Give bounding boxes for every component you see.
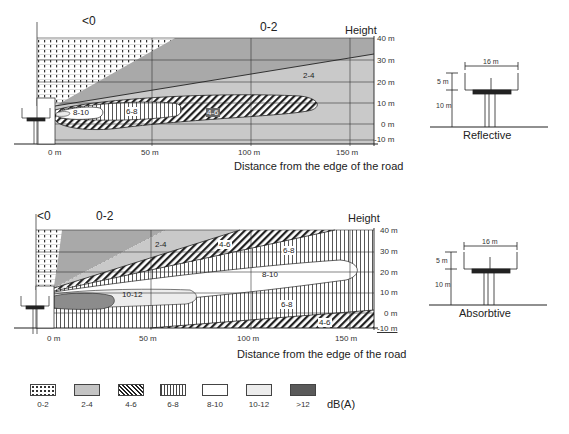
legend-item-2-4: 2-4 [65,384,109,409]
y-tick-40: 40 m [380,226,398,235]
absorbtive-width-label: 16 m [481,238,499,245]
y-tick-40: 40 m [377,34,395,43]
x-tick-50: 50 m [139,334,157,343]
height-axis-title: Height [345,24,377,36]
y-tick-minus-10: -10 m [377,324,397,333]
y-tick-10: 10 m [377,99,395,108]
zone-label-6-8-upper: 6-8 [282,246,296,255]
zone-label-4-6-lower: 4-6 [318,318,332,327]
y-tick-30: 30 m [380,247,398,256]
zone-label-below-zero: <0 [82,14,96,28]
zone-label-6-8: 6-8 [125,107,139,116]
y-tick-0: 0 m [384,309,397,318]
legend-item-10-12: 10-12 [237,384,281,409]
x-tick-150: 150 m [335,334,357,343]
y-tick-minus-10: -10 m [374,135,394,144]
legend-item-gt-12: >12 [281,384,325,409]
x-tick-100: 100 m [238,148,260,157]
zone-label-2-4: 2-4 [303,71,315,80]
reflective-plot [14,22,378,146]
y-tick-30: 30 m [377,56,395,65]
legend-label: >12 [281,400,325,409]
x-tick-0: 0 m [48,148,61,157]
reflective-upper-height-label: 5 m [437,78,449,85]
x-tick-50: 50 m [141,148,159,157]
reflective-width-label: 16 m [482,58,500,65]
x-axis-title: Distance from the edge of the road [237,348,406,360]
absorbtive-lower-height-label: 10 m [435,281,451,288]
zone-label-8-10: 8-10 [262,270,278,279]
diagram-canvas [0,0,569,434]
swatch-very-light-gray [246,384,272,396]
swatch-light-gray [74,384,100,396]
y-tick-20: 20 m [380,268,398,277]
legend-label: 4-6 [109,400,153,409]
zone-label-4-6: 4-6 [206,108,220,117]
height-axis-title: Height [348,212,380,224]
x-tick-100: 100 m [237,334,259,343]
absorbtive-plot [14,214,378,334]
legend-item-0-2: 0-2 [21,384,65,409]
swatch-diagonal-hatch [118,384,144,396]
zone-label-below-zero: <0 [37,209,51,223]
legend-item-8-10: 8-10 [193,384,237,409]
reflective-barrier-schematic [430,62,548,127]
legend-unit: dB(A) [327,398,355,410]
x-axis-title: Distance from the edge of the road [234,160,403,172]
x-tick-0: 0 m [47,334,60,343]
absorbtive-upper-height-label: 5 m [436,257,448,264]
swatch-white [202,384,228,396]
zone-label-10-12: 10-12 [122,290,142,299]
legend-label: 8-10 [193,400,237,409]
absorbtive-barrier-schematic [429,242,547,305]
y-tick-20: 20 m [377,78,395,87]
reflective-caption: Reflective [463,129,511,141]
legend-label: 6-8 [151,400,195,409]
zone-label-0-2: 0-2 [96,209,113,223]
legend-label: 2-4 [65,400,109,409]
legend-label: 0-2 [21,400,65,409]
legend-label: 10-12 [237,400,281,409]
reflective-lower-height-label: 10 m [436,102,452,109]
y-tick-10: 10 m [380,288,398,297]
x-tick-150: 150 m [336,148,358,157]
swatch-dotted-grid [30,384,56,396]
zone-label-0-2: 0-2 [260,20,277,34]
zone-label-8-10: 8-10 [73,108,89,117]
zone-label-4-6-upper: 4-6 [218,240,232,249]
swatch-dark-gray [290,384,316,396]
legend-item-4-6: 4-6 [109,384,153,409]
absorbtive-caption: Absorbtive [459,307,511,319]
legend-item-6-8: 6-8 [151,384,195,409]
swatch-vertical-lines [160,384,186,396]
zone-label-6-8-lower: 6-8 [280,300,294,309]
y-tick-0: 0 m [381,120,394,129]
zone-label-2-4: 2-4 [155,240,167,249]
